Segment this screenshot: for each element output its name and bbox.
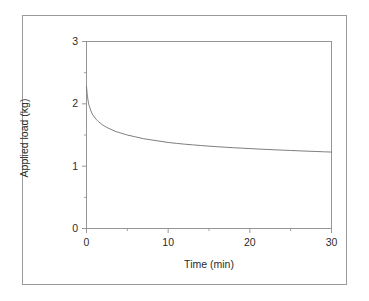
y-axis-title: Applied load (kg) xyxy=(18,78,30,198)
x-tick-label: 20 xyxy=(237,237,263,248)
x-tick-label: 30 xyxy=(319,237,345,248)
x-tick-label: 10 xyxy=(155,237,181,248)
minor-tick-marks xyxy=(84,73,291,231)
y-tick-label: 3 xyxy=(56,36,78,47)
figure-canvas: 0123 0102030 Time (min) Applied load (kg… xyxy=(0,0,369,301)
y-tick-label: 1 xyxy=(56,161,78,172)
y-tick-label: 0 xyxy=(56,223,78,234)
x-axis-title: Time (min) xyxy=(86,258,332,270)
y-tick-label: 2 xyxy=(56,98,78,109)
major-tick-marks xyxy=(82,42,332,234)
axes-frame xyxy=(87,42,332,229)
x-tick-label: 0 xyxy=(74,237,100,248)
load-relaxation-curve xyxy=(87,86,332,152)
